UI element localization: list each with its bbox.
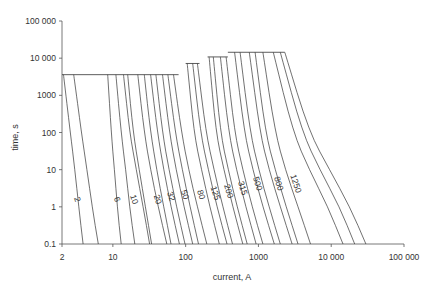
curve-label: 125	[209, 185, 223, 202]
curve-label: 315	[236, 180, 250, 197]
fuse-curve-6	[108, 75, 122, 244]
fuse-curve-1250c	[280, 52, 354, 244]
fuse-curve-1250	[263, 52, 311, 244]
y-tick-label: 100 000	[25, 16, 56, 26]
fuse-curve-800	[249, 52, 292, 244]
fuse-curve-10	[124, 75, 150, 244]
y-tick-label: 10 000	[30, 53, 56, 63]
fuse-curve-2	[64, 75, 84, 244]
curve-label: 20	[152, 193, 165, 205]
fuse-curve-20	[138, 75, 167, 244]
fuse-curve-1250b	[273, 52, 343, 244]
x-tick-label: 10 000	[318, 252, 344, 262]
fuse-curve-800b	[255, 52, 298, 244]
curve-label: 500	[251, 175, 265, 192]
fuse-curve-80b	[187, 64, 219, 245]
fuse-curve-1250d	[285, 52, 366, 244]
fuse-curve-2b	[74, 75, 99, 244]
fuse-curve-50b	[168, 75, 199, 244]
curve-label: 200	[222, 183, 236, 200]
curve-label: 800	[272, 175, 286, 192]
curve-label: 2	[72, 196, 83, 204]
curve-label: 10	[128, 193, 141, 205]
fuse-curve-200	[209, 57, 243, 244]
curve-label: 1250	[288, 173, 303, 194]
fuse-curve-125b	[197, 64, 232, 245]
curve-labels: 2610203250801252003155008001250	[72, 173, 304, 206]
fuse-curve-500b	[240, 52, 280, 244]
y-tick-label: 0.1	[44, 239, 56, 249]
y-axis-title: time, s	[10, 124, 20, 151]
curve-label: 80	[195, 189, 208, 201]
x-tick-label: 100	[179, 252, 193, 262]
x-ticks: 210100100010 000100 000	[60, 244, 420, 262]
y-tick-label: 1	[51, 202, 56, 212]
y-tick-label: 1000	[37, 90, 56, 100]
chart: 0.1110100100010 000100 000 210100100010 …	[0, 0, 431, 295]
y-ticks: 0.1110100100010 000100 000	[25, 16, 62, 249]
x-tick-label: 10	[108, 252, 118, 262]
fuse-curve-125	[193, 64, 227, 245]
x-axis-title: current, A	[213, 272, 252, 282]
plateaus	[62, 52, 285, 74]
y-tick-label: 10	[47, 165, 57, 175]
x-tick-label: 100 000	[389, 252, 420, 262]
curve-label: 50	[179, 189, 192, 201]
y-tick-label: 100	[42, 128, 56, 138]
x-tick-label: 1000	[249, 252, 268, 262]
x-tick-label: 2	[60, 252, 65, 262]
curves	[64, 52, 366, 244]
fuse-curve-200b	[213, 57, 247, 244]
